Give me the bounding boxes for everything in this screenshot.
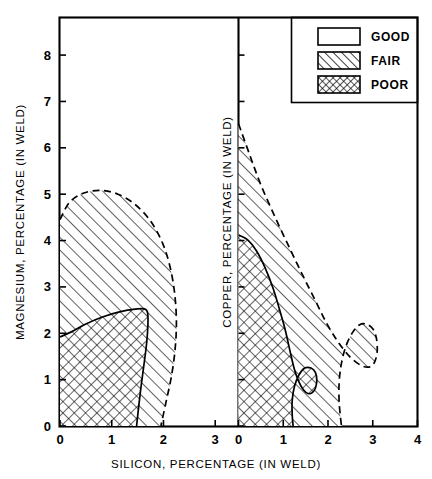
left-y-axis-title: MAGNESIUM, PERCENTAGE (IN WELD) [14, 104, 26, 340]
left-y-tick-label: 8 [44, 48, 51, 63]
weldability-chart: 012345678012301234 SILICON, PERCENTAGE (… [0, 0, 432, 479]
x-tick-label: 3 [369, 432, 376, 447]
x-tick-label: 2 [160, 432, 167, 447]
left-y-tick-label: 1 [44, 372, 51, 387]
center-y-axis-title: COPPER, PERCENTAGE (IN WELD) [221, 116, 233, 328]
left-y-tick-label: 2 [44, 326, 51, 341]
x-tick-label: 3 [212, 432, 219, 447]
left-y-tick-label: 0 [44, 419, 51, 434]
x-tick-label: 1 [108, 432, 115, 447]
x-tick-label: 2 [324, 432, 331, 447]
x-axis-title: SILICON, PERCENTAGE (IN WELD) [111, 458, 321, 470]
legend-label-poor: POOR [371, 78, 409, 92]
legend-label-good: GOOD [371, 30, 410, 44]
left-y-tick-label: 4 [44, 233, 52, 248]
x-tick-label: 0 [56, 432, 63, 447]
x-tick-label: 4 [414, 432, 422, 447]
left-y-tick-label: 3 [44, 279, 51, 294]
legend-swatch-poor [318, 76, 360, 93]
legend-swatch-fair [318, 52, 360, 69]
x-tick-label: 0 [235, 432, 242, 447]
chart-figure: 012345678012301234 SILICON, PERCENTAGE (… [0, 0, 432, 479]
legend-swatch-good [318, 28, 360, 45]
left-y-tick-label: 5 [44, 187, 51, 202]
legend-entry-fair: FAIR [318, 52, 401, 69]
left-y-tick-label: 6 [44, 140, 51, 155]
legend-label-fair: FAIR [371, 54, 401, 68]
left-y-tick-label: 7 [44, 94, 51, 109]
x-tick-label: 1 [280, 432, 287, 447]
